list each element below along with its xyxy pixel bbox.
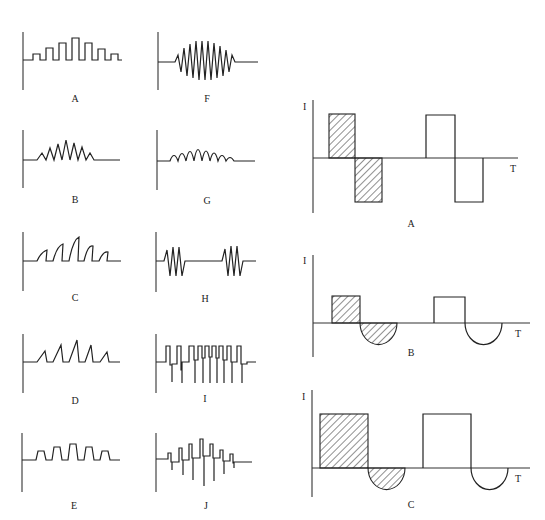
label-j: J xyxy=(204,500,208,511)
y-axis-label-a: I xyxy=(303,101,306,112)
x-axis-label-b: T xyxy=(515,328,521,339)
label-e: E xyxy=(71,500,77,511)
label-a: A xyxy=(71,93,79,104)
label-right-c: C xyxy=(408,499,415,510)
label-b: B xyxy=(72,194,79,205)
x-axis-label-a: T xyxy=(510,163,516,174)
waveform-e: E xyxy=(22,433,120,511)
label-g: G xyxy=(203,195,210,206)
current-waveform-a: I T A xyxy=(303,100,518,229)
waveform-diagram: A B C D E F G H xyxy=(0,0,545,520)
current-waveform-b: I T B xyxy=(303,255,530,358)
waveform-d: D xyxy=(23,334,120,406)
waveform-h: H xyxy=(156,232,256,304)
label-i: I xyxy=(203,393,206,404)
waveform-c: C xyxy=(23,232,121,303)
y-axis-label-c: I xyxy=(302,391,305,402)
label-h: H xyxy=(201,293,208,304)
label-right-b: B xyxy=(408,347,415,358)
waveform-b: B xyxy=(23,130,120,205)
waveform-i: I xyxy=(156,334,256,404)
label-f: F xyxy=(204,93,210,104)
waveform-f: F xyxy=(158,32,258,104)
label-c: C xyxy=(72,292,79,303)
x-axis-label-c: T xyxy=(515,473,521,484)
label-d: D xyxy=(71,395,78,406)
label-right-a: A xyxy=(407,218,415,229)
current-waveform-c: I T C xyxy=(302,390,530,510)
waveform-a: A xyxy=(23,32,122,104)
waveform-j: J xyxy=(156,433,252,511)
waveform-g: G xyxy=(157,130,255,206)
y-axis-label-b: I xyxy=(303,255,306,266)
